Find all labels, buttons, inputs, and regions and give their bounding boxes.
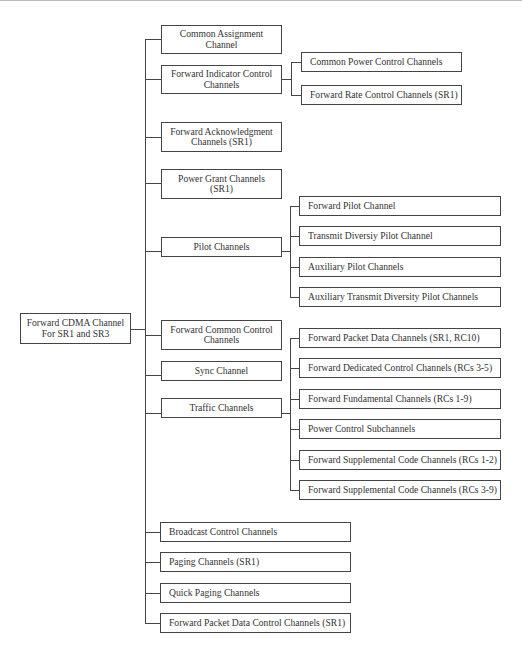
connector-l1: [145, 375, 161, 376]
connector-l2: [290, 368, 299, 369]
node-label: Forward Supplemental Code Channels (RCs …: [308, 485, 497, 496]
connector-root: [131, 329, 145, 330]
node-label: Transmit Diversiy Pilot Channel: [308, 231, 433, 242]
connector-l1: [145, 183, 161, 184]
root-node-forward-cdma-channel: Forward CDMA Channel For SR1 and SR3: [20, 313, 131, 344]
node-broadcast-control-channels: Broadcast Control Channels: [160, 522, 351, 542]
connector-indicator-vertical: [291, 62, 292, 96]
connector-l1: [145, 413, 161, 414]
node-forward-fundamental-channels: Forward Fundamental Channels (RCs 1-9): [299, 389, 501, 409]
node-forward-acknowledgment-channels: Forward Acknowledgment Channels (SR1): [161, 122, 282, 152]
node-paging-channels: Paging Channels (SR1): [160, 552, 351, 572]
connector-l2: [290, 429, 299, 430]
connector-l1: [145, 137, 161, 138]
node-pilot-channels: Pilot Channels: [161, 237, 282, 257]
connector-l1: [145, 593, 161, 594]
root-node-label: Forward CDMA Channel For SR1 and SR3: [27, 318, 125, 339]
connector-traffic-vertical: [290, 338, 291, 491]
node-label: Common Power Control Channels: [310, 57, 442, 68]
connector-l2: [290, 206, 299, 207]
node-label: Common Assignment Channel: [180, 29, 263, 50]
node-sync-channel: Sync Channel: [161, 361, 282, 381]
node-forward-dedicated-control-channels: Forward Dedicated Control Channels (RCs …: [299, 358, 501, 378]
node-label: Forward Packet Data Channels (SR1, RC10): [308, 333, 480, 344]
node-quick-paging-channels: Quick Paging Channels: [160, 583, 351, 603]
node-label: Forward Pilot Channel: [308, 201, 395, 212]
node-common-power-control-channels: Common Power Control Channels: [301, 52, 462, 72]
connector-indicator: [282, 79, 291, 80]
node-auxiliary-transmit-diversity-pilot-channels: Auxiliary Transmit Diversity Pilot Chann…: [299, 287, 501, 307]
node-label: Auxiliary Pilot Channels: [308, 262, 403, 273]
node-label: Auxiliary Transmit Diversity Pilot Chann…: [308, 292, 478, 303]
connector-l1: [145, 532, 161, 533]
connector-l2: [290, 297, 299, 298]
connector-l2: [291, 62, 301, 63]
node-transmit-diversity-pilot-channel: Transmit Diversiy Pilot Channel: [299, 226, 501, 246]
connector-l2: [290, 338, 299, 339]
connector-traffic: [282, 413, 290, 414]
node-forward-common-control-channels: Forward Common Control Channels: [161, 320, 282, 350]
connector-l1: [145, 623, 161, 624]
node-label: Forward Indicator Control Channels: [171, 69, 272, 90]
node-label: Forward Packet Data Control Channels (SR…: [169, 618, 345, 629]
node-label: Forward Acknowledgment Channels (SR1): [170, 127, 273, 148]
top-border-line: [0, 0, 522, 1]
connector-l1: [145, 79, 161, 80]
connector-pilot-vertical: [290, 206, 291, 298]
node-power-grant-channels: Power Grant Channels (SR1): [161, 169, 282, 199]
node-label: Forward Fundamental Channels (RCs 1-9): [308, 394, 472, 405]
connector-l2: [290, 267, 299, 268]
node-label: Forward Dedicated Control Channels (RCs …: [308, 363, 492, 374]
node-label: Forward Supplemental Code Channels (RCs …: [308, 455, 497, 466]
node-label: Forward Rate Control Channels (SR1): [310, 90, 458, 101]
node-power-control-subchannels: Power Control Subchannels: [299, 419, 501, 439]
node-common-assignment-channel: Common Assignment Channel: [161, 25, 282, 54]
node-label: Forward Common Control Channels: [170, 325, 272, 346]
node-label: Broadcast Control Channels: [169, 527, 277, 538]
connector-l2: [290, 460, 299, 461]
node-label: Quick Paging Channels: [169, 588, 260, 599]
connector-l2: [291, 95, 301, 96]
connector-l1: [145, 251, 161, 252]
node-label: Pilot Channels: [193, 242, 249, 253]
connector-l1: [145, 562, 161, 563]
node-label: Sync Channel: [195, 366, 249, 377]
node-forward-supplemental-code-channels-3-9: Forward Supplemental Code Channels (RCs …: [299, 480, 501, 500]
node-forward-pilot-channel: Forward Pilot Channel: [299, 196, 501, 216]
node-forward-packet-data-control-channels: Forward Packet Data Control Channels (SR…: [160, 613, 351, 633]
node-label: Paging Channels (SR1): [169, 557, 259, 568]
node-label: Traffic Channels: [189, 403, 253, 414]
connector-l1: [145, 335, 161, 336]
node-forward-supplemental-code-channels-1-2: Forward Supplemental Code Channels (RCs …: [299, 450, 501, 470]
node-label: Power Control Subchannels: [308, 424, 415, 435]
connector-trunk: [145, 39, 146, 623]
node-forward-packet-data-channels: Forward Packet Data Channels (SR1, RC10): [299, 328, 501, 348]
node-label: Power Grant Channels (SR1): [178, 174, 265, 195]
node-traffic-channels: Traffic Channels: [161, 398, 282, 418]
connector-l2: [290, 490, 299, 491]
connector-l2: [290, 236, 299, 237]
node-auxiliary-pilot-channels: Auxiliary Pilot Channels: [299, 257, 501, 277]
node-forward-rate-control-channels: Forward Rate Control Channels (SR1): [301, 85, 462, 105]
connector-l2: [290, 399, 299, 400]
connector-l1: [145, 39, 161, 40]
connector-pilot: [282, 251, 290, 252]
node-forward-indicator-control-channels: Forward Indicator Control Channels: [161, 65, 282, 94]
